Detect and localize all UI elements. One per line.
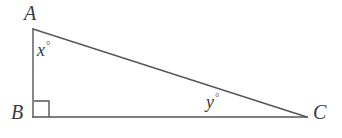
vertex-label-b: B [11, 102, 23, 122]
angle-x-variable: x [37, 40, 45, 60]
right-angle-marker-icon [34, 101, 49, 117]
side-ac-hypotenuse-line [33, 29, 307, 117]
degree-symbol-icon: ° [215, 91, 219, 103]
degree-symbol-icon: ° [46, 39, 50, 51]
vertex-label-a: A [24, 3, 36, 23]
angle-label-x: x° [37, 40, 50, 59]
triangle-drawing [0, 0, 342, 138]
triangle-figure: A B C x° y° [0, 0, 342, 138]
angle-label-y: y° [206, 92, 219, 111]
vertex-label-c: C [313, 102, 326, 122]
angle-y-variable: y [206, 92, 214, 112]
